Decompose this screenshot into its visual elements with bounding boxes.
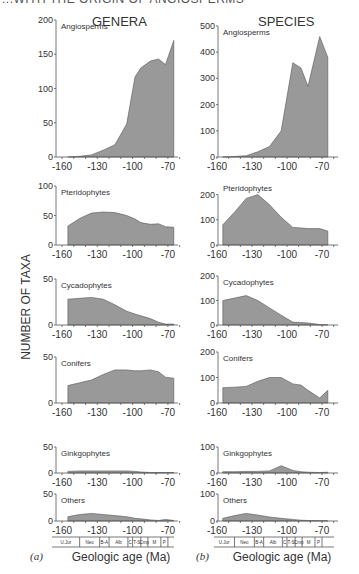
y-tick-label: 50 [43, 118, 53, 128]
area-series-pteridophytes [68, 212, 174, 245]
stage-label: B-A [101, 540, 109, 545]
y-tick-label: 300 [200, 73, 215, 83]
x-tick-label: -130 [242, 525, 262, 536]
subfigure-label: (b) [196, 550, 209, 563]
y-tick-label: 100 [200, 442, 215, 452]
x-tick-label: -160 [52, 249, 72, 260]
y-tick-label: 100 [38, 181, 53, 191]
area-series-angiosperms [223, 37, 328, 158]
x-tick-label: -100 [277, 477, 297, 488]
x-tick-label: -160 [207, 161, 227, 172]
y-tick-label: 50 [43, 352, 53, 362]
x-tick-label: -100 [277, 525, 297, 536]
area-series-pteridophytes [223, 195, 328, 245]
y-tick-label: 50 [43, 211, 53, 221]
y-tick-label: 200 [200, 100, 215, 110]
x-tick-label: -160 [52, 525, 72, 536]
panel-label-pteridophytes: Pteridophytes [223, 184, 272, 193]
stage-label: Cmp [140, 540, 150, 545]
panel-label-pteridophytes: Pteridophytes [61, 188, 110, 197]
x-tick-label: -100 [277, 407, 297, 418]
x-tick-label: -160 [207, 329, 227, 340]
x-tick-label: -70 [315, 249, 330, 260]
y-tick-label: 100 [200, 373, 215, 383]
y-tick-label: 100 [38, 84, 53, 94]
panel-label-cycadophytes: Cycadophytes [61, 281, 112, 290]
x-axis-label: Geologic age (Ma) [72, 550, 171, 564]
x-tick-label: -130 [242, 161, 262, 172]
stage-label: M [307, 540, 311, 545]
y-tick-label: 100 [200, 126, 215, 136]
x-tick-label: -130 [87, 249, 107, 260]
area-series-conifers [68, 370, 174, 403]
x-tick-label: -70 [315, 161, 330, 172]
x-tick-label: -100 [123, 329, 143, 340]
x-tick-label: -160 [207, 477, 227, 488]
area-series-others [223, 513, 328, 521]
x-tick-label: -70 [315, 329, 330, 340]
x-tick-label: -160 [52, 477, 72, 488]
panel-label-cycadophytes: Cycadophytes [223, 278, 274, 287]
x-tick-label: -100 [277, 329, 297, 340]
x-tick-label: -130 [87, 329, 107, 340]
stage-label: P [317, 540, 320, 545]
x-tick-label: -160 [52, 329, 72, 340]
y-tick-label: 500 [200, 21, 215, 31]
panel-label-conifers: Conifers [223, 354, 253, 363]
stage-label: Cmp [294, 540, 304, 545]
stage-label: P [163, 540, 166, 545]
x-tick-label: -100 [277, 161, 297, 172]
x-tick-label: -70 [161, 477, 176, 488]
x-tick-label: -160 [52, 407, 72, 418]
panel-label-angiosperms: Angiosperms [61, 22, 108, 31]
stage-label: B-A [255, 540, 263, 545]
x-tick-label: -130 [87, 161, 107, 172]
y-tick-label: 50 [43, 274, 53, 284]
x-tick-label: -100 [123, 477, 143, 488]
y-tick-label: 200 [200, 271, 215, 281]
x-tick-label: -130 [242, 477, 262, 488]
x-tick-label: -100 [123, 407, 143, 418]
panel-label-angiosperms: Angiosperms [223, 28, 270, 37]
panel-label-others: Others [61, 496, 85, 505]
x-tick-label: -70 [161, 329, 176, 340]
x-tick-label: -130 [242, 249, 262, 260]
y-tick-label: 200 [38, 15, 53, 25]
stage-label: U.Jur [219, 540, 230, 545]
y-tick-label: 50 [43, 489, 53, 499]
x-tick-label: -130 [87, 407, 107, 418]
y-tick-label: 100 [200, 296, 215, 306]
x-tick-label: -70 [161, 249, 176, 260]
stage-label: Neo [240, 540, 249, 545]
y-tick-label: 400 [200, 47, 215, 57]
chart-canvas: 050100150200-160-130-100-70Angiosperms05… [0, 0, 359, 574]
panel-label-ginkgophytes: Ginkgophytes [61, 449, 110, 458]
stage-label: C [283, 540, 287, 545]
y-tick-label: 150 [38, 49, 53, 59]
x-tick-label: -130 [242, 329, 262, 340]
x-tick-label: -70 [315, 407, 330, 418]
panel-label-ginkgophytes: Ginkgophytes [223, 449, 272, 458]
y-tick-label: 50 [43, 442, 53, 452]
area-series-ginkgophytes [223, 466, 328, 473]
x-tick-label: -100 [123, 525, 143, 536]
x-tick-label: -70 [315, 477, 330, 488]
y-tick-label: 100 [200, 215, 215, 225]
panel-label-others: Others [223, 496, 247, 505]
area-series-cycadophytes [68, 297, 174, 325]
x-tick-label: -70 [161, 525, 176, 536]
area-series-others [68, 513, 174, 521]
x-tick-label: -100 [123, 249, 143, 260]
x-tick-label: -130 [87, 477, 107, 488]
x-tick-label: -100 [123, 161, 143, 172]
x-tick-label: -160 [207, 249, 227, 260]
area-series-cycadophytes [223, 296, 328, 325]
subfigure-label: (a) [30, 550, 43, 563]
stage-label: M [152, 540, 156, 545]
y-tick-label: 100 [200, 489, 215, 499]
x-tick-label: -160 [52, 161, 72, 172]
area-series-conifers [223, 378, 328, 404]
x-tick-label: -160 [207, 407, 227, 418]
stage-label: Alb [115, 540, 122, 545]
stage-label: Neo [86, 540, 95, 545]
